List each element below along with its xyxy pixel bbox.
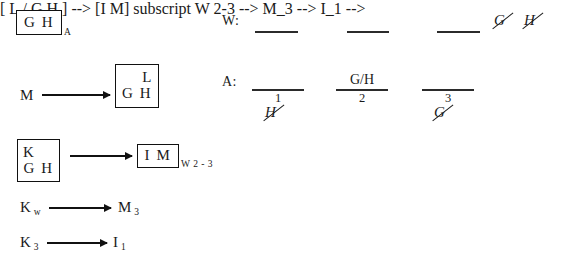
row-label-a: A: <box>222 74 237 90</box>
struck-letter-g-a-slot-3: G <box>434 104 445 121</box>
w-slot-1-blank[interactable] <box>255 31 298 33</box>
token-kw-base: K <box>20 199 31 215</box>
box-l-gh-top: L <box>116 70 158 86</box>
token-i1-target: I1 <box>113 234 126 252</box>
arrow-m-to-lgh <box>42 94 110 96</box>
box-im-text: I M <box>138 148 178 164</box>
box-gh-a: G H <box>16 10 62 35</box>
token-m3-target: M3 <box>118 199 140 217</box>
token-i1-base: I <box>113 234 119 250</box>
arrow-k3-to-i1 <box>47 242 107 244</box>
token-m-source: M <box>20 87 34 104</box>
a-slot-1-number: 1 <box>252 91 304 106</box>
arrow-kgh-to-im <box>70 155 132 157</box>
box-l-gh: L G H <box>115 64 159 108</box>
box-gh-a-text: G H <box>17 15 61 31</box>
row-label-w: W: <box>222 13 239 29</box>
a-slot-2-number: 2 <box>336 91 388 106</box>
token-m3-base: M <box>118 199 132 215</box>
box-k-gh-top: K <box>18 145 59 161</box>
box-im-subscript: W 2 - 3 <box>181 159 213 169</box>
box-k-gh: K G H <box>17 139 60 182</box>
w-slot-3-blank[interactable] <box>437 31 480 33</box>
token-k3-subscript: 3 <box>31 242 39 252</box>
token-k3-source: K3 <box>20 234 39 252</box>
token-kw-subscript: w <box>31 207 41 217</box>
box-im: I M <box>137 144 179 168</box>
struck-letter-g-w-row: G <box>494 12 505 29</box>
box-l-gh-bottom: G H <box>116 86 158 102</box>
box-k-gh-bottom: G H <box>18 161 59 177</box>
struck-letter-h-a-slot-1: H <box>265 104 276 121</box>
w-slot-2-blank[interactable] <box>347 31 389 33</box>
arrow-kw-to-m3 <box>49 207 111 209</box>
a-slot-2-above: G/H <box>334 72 390 88</box>
token-m3-subscript: 3 <box>132 207 140 217</box>
token-i1-subscript: 1 <box>119 242 127 252</box>
worksheet-canvas: G H A [ L / G H ] --> M L G H [I M] subs… <box>0 0 569 270</box>
a-slot-3-number: 3 <box>422 91 474 106</box>
struck-letter-h-w-row: H <box>524 12 535 29</box>
box-gh-a-subscript: A <box>64 27 71 37</box>
token-k3-base: K <box>20 234 31 250</box>
token-kw-source: Kw <box>20 199 41 217</box>
